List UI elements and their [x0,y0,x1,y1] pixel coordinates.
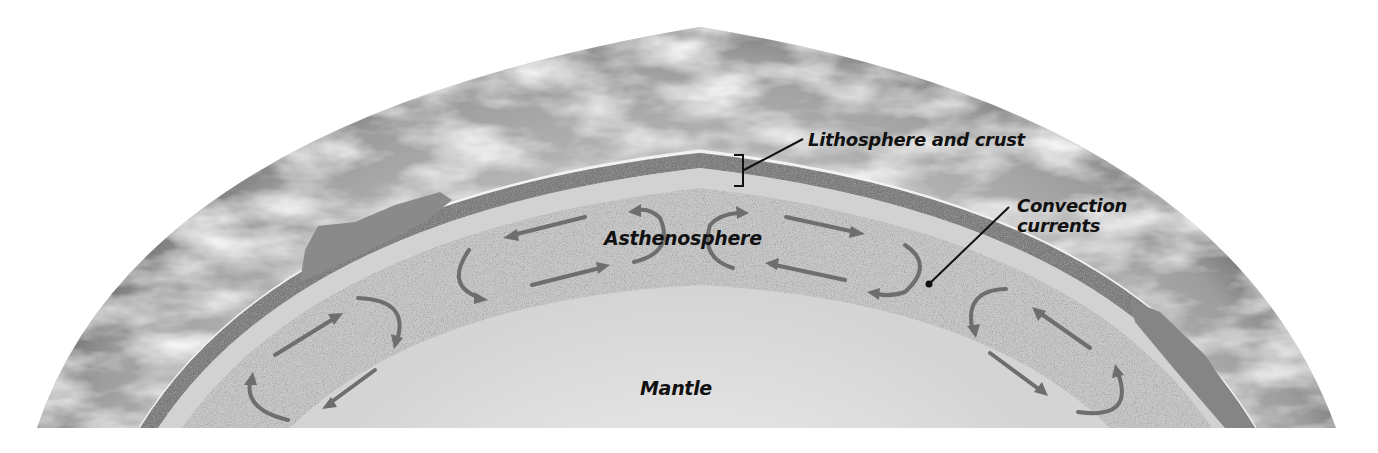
label-convection-currents: Convection currents [1017,196,1127,236]
label-lithosphere-and-crust: Lithosphere and crust [808,130,1025,150]
label-convection-line1: Convection [1017,196,1127,216]
label-convection-line2: currents [1017,216,1127,236]
earth-cross-section-diagram: Lithosphere and crust Convection current… [0,0,1378,453]
convection-leader-dot [926,281,933,288]
label-mantle: Mantle [640,378,712,399]
label-asthenosphere: Asthenosphere [604,228,762,249]
